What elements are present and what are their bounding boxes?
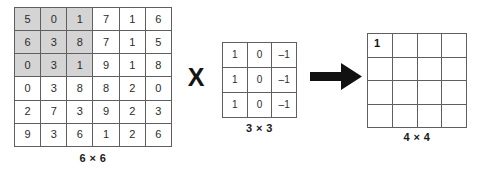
- output-matrix-cell-2-1: [393, 81, 418, 105]
- input-matrix-cell-3-1: 3: [41, 77, 67, 100]
- input-matrix-cell-1-3: 7: [93, 31, 119, 54]
- output-matrix-cell-3-1: [393, 105, 418, 129]
- input-matrix-cell-4-3: 9: [93, 101, 119, 124]
- input-matrix-cell-4-0: 2: [15, 101, 41, 124]
- output-matrix-4x4: 1: [367, 33, 467, 128]
- input-matrix-cell-4-2: 3: [67, 101, 93, 124]
- convolution-diagram: 501716638715031918038820273923936126 6 ×…: [0, 0, 489, 174]
- input-matrix-cell-3-2: 8: [67, 77, 93, 100]
- output-matrix-cell-0-0: 1: [368, 34, 393, 58]
- input-matrix-cell-4-1: 7: [41, 101, 67, 124]
- output-matrix-cell-1-0: [368, 58, 393, 82]
- input-matrix-cell-3-4: 2: [120, 77, 146, 100]
- input-matrix-cell-0-1: 0: [41, 8, 67, 31]
- input-matrix-cell-2-5: 8: [146, 54, 172, 77]
- input-matrix-cell-1-1: 3: [41, 31, 67, 54]
- input-matrix-cell-2-3: 9: [93, 54, 119, 77]
- output-matrix-cell-3-3: [442, 105, 467, 129]
- input-matrix-cell-5-4: 2: [120, 124, 146, 147]
- output-matrix-cell-3-0: [368, 105, 393, 129]
- kernel-matrix-cell-0-1: 0: [248, 43, 273, 68]
- input-matrix-cell-0-0: 5: [15, 8, 41, 31]
- input-matrix-cell-1-0: 6: [15, 31, 41, 54]
- input-matrix-cell-5-2: 6: [67, 124, 93, 147]
- multiply-symbol: X: [183, 62, 209, 92]
- arrow-right-icon: [310, 62, 363, 91]
- input-matrix-cell-1-4: 1: [120, 31, 146, 54]
- output-matrix-cell-1-1: [393, 58, 418, 82]
- output-matrix-cell-3-2: [418, 105, 443, 129]
- input-matrix-cell-4-5: 3: [146, 101, 172, 124]
- input-matrix-cell-3-0: 0: [15, 77, 41, 100]
- input-matrix-caption: 6 × 6: [14, 152, 172, 164]
- input-matrix-cell-3-5: 0: [146, 77, 172, 100]
- output-matrix-cell-1-2: [418, 58, 443, 82]
- output-matrix-cell-1-3: [442, 58, 467, 82]
- kernel-matrix-cell-2-1: 0: [248, 93, 273, 118]
- input-matrix-cell-5-0: 9: [15, 124, 41, 147]
- input-matrix-cell-4-4: 2: [120, 101, 146, 124]
- kernel-matrix-cell-0-2: –1: [272, 43, 297, 68]
- output-matrix-cell-0-3: [442, 34, 467, 58]
- input-matrix-cell-2-0: 0: [15, 54, 41, 77]
- input-matrix-cell-5-1: 3: [41, 124, 67, 147]
- input-matrix-cell-1-2: 8: [67, 31, 93, 54]
- kernel-matrix-caption: 3 × 3: [222, 122, 297, 134]
- input-matrix-cell-0-5: 6: [146, 8, 172, 31]
- output-matrix-caption: 4 × 4: [367, 131, 467, 143]
- input-matrix-6x6: 501716638715031918038820273923936126: [14, 7, 172, 147]
- input-matrix-cell-0-3: 7: [93, 8, 119, 31]
- output-matrix-cell-2-3: [442, 81, 467, 105]
- input-matrix-cell-5-3: 1: [93, 124, 119, 147]
- kernel-matrix-cell-0-0: 1: [223, 43, 248, 68]
- kernel-matrix-cell-2-0: 1: [223, 93, 248, 118]
- output-matrix-cell-2-2: [418, 81, 443, 105]
- output-matrix-cell-0-2: [418, 34, 443, 58]
- input-matrix-cell-2-2: 1: [67, 54, 93, 77]
- kernel-matrix-cell-1-1: 0: [248, 68, 273, 93]
- input-matrix-cell-2-1: 3: [41, 54, 67, 77]
- output-matrix-cell-2-0: [368, 81, 393, 105]
- kernel-matrix-cell-1-2: –1: [272, 68, 297, 93]
- input-matrix-cell-0-4: 1: [120, 8, 146, 31]
- input-matrix-cell-3-3: 8: [93, 77, 119, 100]
- input-matrix-cell-1-5: 5: [146, 31, 172, 54]
- kernel-matrix-cell-2-2: –1: [272, 93, 297, 118]
- input-matrix-cell-5-5: 6: [146, 124, 172, 147]
- input-matrix-cell-2-4: 1: [120, 54, 146, 77]
- kernel-matrix-3x3: 10–110–110–1: [222, 42, 297, 118]
- kernel-matrix-cell-1-0: 1: [223, 68, 248, 93]
- output-matrix-cell-0-1: [393, 34, 418, 58]
- input-matrix-cell-0-2: 1: [67, 8, 93, 31]
